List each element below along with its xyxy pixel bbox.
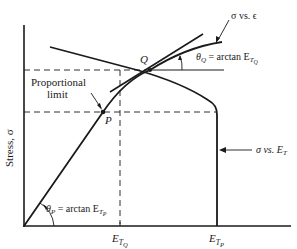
theta-Q-label: θQ = arctan ETQ [196, 52, 258, 66]
x-tick-ETP: ETP [209, 233, 224, 249]
proportional-limit-label-line1: Proportional [31, 77, 86, 88]
proportional-limit-arrowhead [97, 103, 102, 110]
point-Q-label: Q [140, 54, 148, 65]
proportional-limit-label-line2: limit [47, 89, 68, 100]
sigma-vs-epsilon-label: σ vs. ϵ [231, 11, 257, 21]
diagram-graphics [0, 0, 297, 249]
point-Q-marker [148, 68, 152, 72]
point-P-label: P [105, 115, 112, 126]
theta-Q-arrowhead [178, 55, 182, 60]
sigma-vs-ET-curve [50, 47, 217, 226]
diagram-canvas: Stress, σ Proportional limit P Q σ vs. ϵ… [0, 0, 297, 249]
sigma-ET-arrowhead [219, 147, 226, 153]
sigma-epsilon-arrow-line [218, 20, 229, 40]
y-axis-label: Stress, σ [4, 129, 15, 167]
theta-P-label: θP = arctan ETP [46, 204, 106, 218]
Q-tangent-line [110, 34, 203, 92]
sigma-vs-ET-label: σ vs. ET [256, 145, 287, 157]
x-tick-ETQ: ETQ [112, 233, 128, 249]
